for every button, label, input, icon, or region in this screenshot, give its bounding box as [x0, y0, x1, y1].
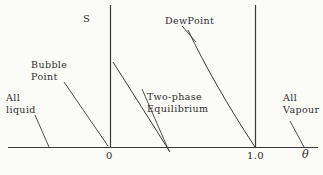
- axis-tick-label-one: 1.0: [247, 150, 264, 162]
- phase-diagram-figure: All liquid Bubble Point S Two-phase Equi…: [0, 0, 323, 175]
- label-bubble-point-line1: Bubble: [31, 59, 67, 71]
- all-liquid-leader-line: [35, 115, 49, 147]
- label-bubble-point-line2: Point: [31, 71, 67, 83]
- label-all-liquid: All liquid: [6, 92, 36, 115]
- label-two-phase-equilibrium: Two-phase Equilibrium: [147, 91, 208, 114]
- axis-variable-theta-label: θ: [302, 149, 309, 161]
- dew-point-curve: [188, 30, 255, 147]
- label-s: S: [83, 13, 90, 25]
- label-all-liquid-line1: All: [6, 92, 36, 104]
- label-two-phase-line2: Equilibrium: [147, 103, 208, 115]
- label-two-phase-line1: Two-phase: [147, 91, 208, 103]
- dew-point-leader-line: [182, 26, 196, 42]
- label-all-vapour-line2: Vapour: [283, 104, 320, 116]
- axis-tick-label-zero: 0: [106, 150, 113, 162]
- bubble-point-leader-line: [64, 82, 108, 146]
- label-dew-point: DewPoint: [165, 15, 214, 27]
- all-vapour-leader-line: [290, 121, 304, 147]
- label-all-liquid-line2: liquid: [6, 104, 36, 116]
- label-all-vapour: All Vapour: [283, 92, 320, 115]
- diagram-canvas: [0, 0, 323, 175]
- label-bubble-point: Bubble Point: [31, 59, 67, 82]
- label-all-vapour-line1: All: [283, 92, 320, 104]
